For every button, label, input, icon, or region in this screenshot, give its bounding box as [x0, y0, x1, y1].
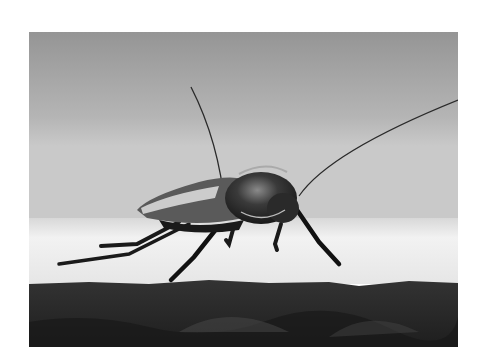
insect-head	[267, 193, 299, 223]
ledge-surface	[29, 218, 458, 284]
photo	[29, 32, 458, 347]
cockroach-photo	[29, 32, 458, 347]
